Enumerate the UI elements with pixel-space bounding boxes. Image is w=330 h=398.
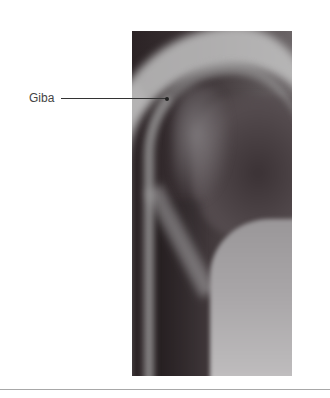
annotation-pointer-dot — [165, 97, 169, 101]
xray-image — [132, 31, 292, 376]
annotation-leader-line — [61, 98, 167, 99]
xray-rib-contour — [144, 61, 292, 376]
divider-rule — [0, 389, 330, 390]
annotation-label-giba: Giba — [29, 91, 54, 105]
